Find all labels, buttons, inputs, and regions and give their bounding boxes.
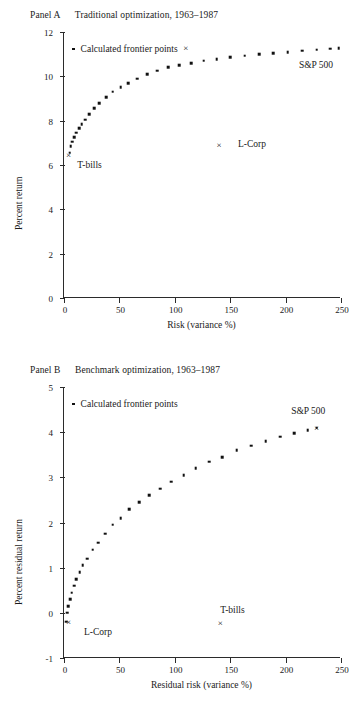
frontier-point <box>243 54 246 57</box>
frontier-point <box>182 474 185 477</box>
frontier-point <box>105 96 108 99</box>
frontier-point <box>287 51 290 54</box>
panel-b-caption-text: Benchmark optimization, 1963–1987 <box>75 365 220 375</box>
frontier-point <box>279 435 282 438</box>
x-tick-label: 150 <box>224 665 238 675</box>
x-tick: 50 <box>119 298 120 303</box>
y-tick-label: 5 <box>49 383 54 393</box>
y-tick-label: 8 <box>49 117 54 127</box>
x-tick: 100 <box>175 658 176 663</box>
frontier-point <box>178 64 181 67</box>
frontier-point <box>82 564 85 567</box>
frontier-point <box>264 440 267 443</box>
y-tick-label: -1 <box>46 654 54 664</box>
frontier-point <box>258 53 261 56</box>
panel-a: Panel A Traditional optimization, 1963–1… <box>0 0 363 355</box>
frontier-point <box>104 532 107 535</box>
x-tick: 0 <box>64 658 65 663</box>
y-tick-label: 6 <box>49 161 54 171</box>
y-tick: 3 <box>60 477 65 478</box>
frontier-point <box>67 605 70 608</box>
x-tick: 250 <box>341 298 342 303</box>
frontier-point <box>78 127 81 130</box>
x-tick: 0 <box>64 298 65 303</box>
panel-a-caption-label: Panel A <box>30 10 61 20</box>
frontier-point <box>119 86 122 89</box>
frontier-point <box>306 429 309 432</box>
x-tick: 100 <box>175 298 176 303</box>
frontier-point <box>136 77 139 80</box>
y-tick: 6 <box>60 165 65 166</box>
panel-b-caption-label: Panel B <box>30 365 61 375</box>
frontier-point <box>159 487 162 490</box>
x-tick-label: 200 <box>280 305 294 315</box>
frontier-point <box>190 62 193 65</box>
panel-a-plot-area: 024681012050100150200250×××S&P 500L-Corp… <box>63 32 340 298</box>
x-tick-label: 200 <box>280 665 294 675</box>
y-tick: 4 <box>60 209 65 210</box>
frontier-point <box>221 456 224 459</box>
x-tick: 200 <box>286 298 287 303</box>
frontier-point <box>146 73 149 76</box>
x-tick-label: 100 <box>169 665 183 675</box>
frontier-point <box>69 598 72 601</box>
frontier-point <box>69 145 72 148</box>
frontier-point <box>167 66 170 69</box>
y-tick: 2 <box>60 523 65 524</box>
x-tick-label: 0 <box>63 305 68 315</box>
panel-a-y-axis-title: Percent return <box>14 176 24 230</box>
x-tick-label: 100 <box>169 305 183 315</box>
annotation-t-bills: T-bills <box>77 160 101 170</box>
frontier-point <box>97 542 100 545</box>
frontier-point <box>337 47 340 50</box>
data-marker-l-corp: × <box>217 141 222 150</box>
frontier-point <box>93 107 96 110</box>
panel-a-x-axis-title: Risk (variance %) <box>63 320 340 330</box>
data-marker-s-p-500: × <box>183 43 188 52</box>
frontier-point <box>80 123 83 126</box>
legend: Calculated frontier points <box>72 44 178 54</box>
frontier-point <box>70 591 73 594</box>
frontier-point <box>127 82 130 85</box>
y-tick: 8 <box>60 121 65 122</box>
y-tick-label: 1 <box>49 564 54 574</box>
y-tick: 1 <box>60 568 65 569</box>
frontier-point <box>156 69 159 72</box>
x-tick: 150 <box>230 298 231 303</box>
frontier-point <box>170 481 173 484</box>
frontier-point <box>98 102 101 105</box>
frontier-point <box>86 557 89 560</box>
frontier-point <box>293 432 296 435</box>
panel-b: Panel B Benchmark optimization, 1963–198… <box>0 355 363 718</box>
annotation-s-p-500: S&P 500 <box>291 406 325 416</box>
frontier-point <box>111 523 114 526</box>
y-tick: 10 <box>60 76 65 77</box>
annotation-t-bills: T-bills <box>220 605 244 615</box>
frontier-point <box>75 132 78 135</box>
panel-a-caption: Panel A Traditional optimization, 1963–1… <box>30 10 218 20</box>
y-tick-label: 12 <box>44 28 53 38</box>
frontier-point <box>301 50 304 53</box>
y-tick: 5 <box>60 387 65 388</box>
x-tick-label: 0 <box>63 665 68 675</box>
y-tick-label: 4 <box>49 428 54 438</box>
frontier-point <box>208 460 211 463</box>
annotation-l-corp: L-Corp <box>84 627 112 637</box>
x-tick-label: 250 <box>335 305 349 315</box>
y-tick-label: 0 <box>49 609 54 619</box>
legend: Calculated frontier points <box>72 399 178 409</box>
frontier-point <box>73 584 76 587</box>
frontier-point <box>229 56 232 59</box>
frontier-point <box>66 612 69 615</box>
panel-b-plot-area: -1012345050100150200250×××S&P 500L-CorpT… <box>63 387 340 658</box>
x-tick: 150 <box>230 658 231 663</box>
legend-dot-icon <box>72 48 75 51</box>
frontier-point <box>84 118 87 121</box>
frontier-point <box>315 48 318 51</box>
frontier-point <box>148 494 151 497</box>
frontier-point <box>78 571 81 574</box>
frontier-point <box>88 113 91 116</box>
legend-label: Calculated frontier points <box>81 44 178 54</box>
frontier-point <box>216 58 219 61</box>
y-tick: 0 <box>60 613 65 614</box>
